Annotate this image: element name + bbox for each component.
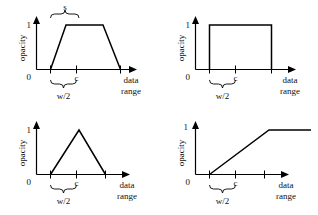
y-axis-arrowhead — [192, 121, 199, 129]
x-axis-arrowhead — [281, 171, 289, 178]
brace-w-over-2 — [51, 185, 77, 193]
x-axis-arrowhead — [122, 171, 130, 178]
y-axis-arrowhead — [192, 16, 199, 24]
y-axis-label: opacity — [17, 34, 27, 61]
label-w-over-2: w/2 — [57, 91, 71, 101]
x-axis-arrowhead — [288, 66, 296, 73]
x-axis-label-line2: range — [117, 191, 137, 201]
label-s: s — [63, 2, 67, 12]
y-tick-label-zero: 0 — [186, 72, 191, 82]
panel-top-right: w/2 1 0 c opacity data range — [159, 0, 318, 108]
curve-trapezoid — [51, 25, 121, 70]
x-axis-label-line1: data — [283, 75, 298, 85]
x-axis-label-line2: range — [276, 191, 296, 201]
curve-rectangle — [210, 25, 272, 70]
x-tick-label-c: c — [75, 73, 79, 83]
brace-w-over-2 — [210, 185, 236, 193]
x-axis-label-line1: data — [124, 75, 139, 85]
x-tick-label-c: c — [234, 73, 238, 83]
y-tick-label-zero: 0 — [27, 177, 32, 187]
y-axis-arrowhead — [33, 121, 40, 129]
y-tick-label-zero: 0 — [186, 177, 191, 187]
x-axis-label-line1: data — [279, 180, 294, 190]
label-w-over-2: w/2 — [216, 196, 230, 206]
panel-bottom-left: w/2 1 0 c opacity data range — [0, 108, 159, 215]
x-tick-label-c: c — [75, 178, 79, 188]
x-axis-label-line1: data — [120, 180, 135, 190]
y-tick-label-zero: 0 — [27, 72, 32, 82]
y-axis-label: opacity — [176, 34, 186, 61]
label-w-over-2: w/2 — [57, 196, 71, 206]
y-axis-arrowhead — [33, 16, 40, 24]
y-tick-label-one: 1 — [184, 122, 189, 132]
label-w-over-2: w/2 — [216, 91, 230, 101]
y-axis-label: opacity — [176, 139, 186, 166]
x-axis-label-line2: range — [280, 86, 300, 96]
curve-triangle — [51, 130, 106, 175]
x-axis-arrowhead — [129, 66, 137, 73]
panel-bottom-right: w/2 1 0 c opacity data range — [159, 108, 318, 215]
y-axis-label: opacity — [17, 139, 27, 166]
x-tick-label-c: c — [234, 178, 238, 188]
transfer-function-figure: s w/2 1 0 c opacity data range w/2 1 0 c… — [0, 0, 318, 215]
y-tick-label-one: 1 — [186, 20, 191, 30]
x-axis-label-line2: range — [121, 86, 141, 96]
y-tick-label-one: 1 — [27, 20, 32, 30]
brace-w-over-2 — [210, 80, 236, 88]
panel-top-left: s w/2 1 0 c opacity data range — [0, 0, 159, 108]
curve-ramp — [210, 130, 312, 175]
brace-w-over-2 — [51, 80, 77, 88]
y-tick-label-one: 1 — [27, 125, 32, 135]
